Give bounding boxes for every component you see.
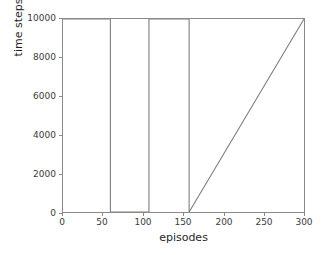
y-tick-mark (59, 18, 62, 19)
x-tick-label: 100 (134, 217, 151, 228)
y-tick-mark (59, 57, 62, 58)
x-tick-mark (224, 213, 225, 216)
y-tick-label: 10000 (27, 13, 56, 24)
y-tick-label: 0 (50, 208, 56, 219)
y-tick-label: 2000 (33, 169, 56, 180)
y-tick-mark (59, 174, 62, 175)
data-series-line (63, 19, 304, 212)
x-tick-mark (304, 213, 305, 216)
x-tick-label: 50 (96, 217, 107, 228)
y-tick-mark (59, 213, 62, 214)
x-axis-label: episodes (62, 231, 305, 244)
x-tick-mark (264, 213, 265, 216)
x-tick-mark (143, 213, 144, 216)
y-tick-mark (59, 135, 62, 136)
x-tick-label: 0 (59, 217, 65, 228)
plot-area (62, 18, 305, 213)
x-tick-label: 200 (215, 217, 232, 228)
x-tick-label: 300 (295, 217, 312, 228)
chart-figure: 0 50 100 150 200 250 300 0 2000 4000 600… (0, 0, 328, 255)
x-tick-mark (102, 213, 103, 216)
y-tick-label: 4000 (33, 130, 56, 141)
x-tick-label: 250 (255, 217, 272, 228)
y-tick-label: 6000 (33, 91, 56, 102)
x-tick-label: 150 (174, 217, 191, 228)
y-axis-label: time steps (12, 0, 26, 125)
y-tick-mark (59, 96, 62, 97)
y-tick-label: 8000 (33, 52, 56, 63)
x-tick-mark (183, 213, 184, 216)
x-tick-mark (62, 213, 63, 216)
